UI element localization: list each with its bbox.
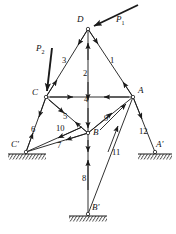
member-number-1: 1 <box>110 56 114 65</box>
arrow-1-at-A <box>123 82 133 97</box>
member-number-2: 2 <box>83 69 87 78</box>
joint-label-A-prime: A' <box>156 140 163 149</box>
truss-diagram-figure: D C A B C' A' B' 1 2 3 4 5 6 7 8 9 10 11… <box>0 0 176 234</box>
ground-supports <box>8 154 172 222</box>
load-P2-arrow <box>47 48 52 91</box>
joint-label-B: B <box>93 128 99 137</box>
support-C-prime <box>8 154 46 160</box>
load-P1-subscript: 1 <box>122 20 125 26</box>
support-B-prime <box>69 216 107 222</box>
joint-B-marker <box>86 131 89 134</box>
joint-C-marker <box>44 95 47 98</box>
member-number-12: 12 <box>139 127 148 136</box>
support-A-prime <box>138 154 172 160</box>
arrow-3-at-D <box>78 29 88 45</box>
joint-label-B-prime: B' <box>92 203 99 212</box>
joint-markers <box>24 27 156 215</box>
arrow-12-at-A <box>133 97 142 119</box>
joint-A-marker <box>131 95 134 98</box>
joint-D-marker <box>86 27 89 30</box>
diagram-canvas <box>0 0 176 234</box>
member-number-6: 6 <box>31 125 35 134</box>
member-number-9: 9 <box>104 114 108 123</box>
joint-label-C-prime: C' <box>11 140 19 149</box>
member-number-3: 3 <box>62 56 66 65</box>
joint-C-prime-marker <box>24 150 27 153</box>
member-number-7: 7 <box>57 141 61 150</box>
member-lines <box>26 29 155 214</box>
arrow-1-at-D <box>88 29 98 44</box>
member-number-10: 10 <box>56 124 65 133</box>
load-label-P2: P2 <box>36 44 45 55</box>
member-number-8: 8 <box>82 174 86 183</box>
joint-B-prime-marker <box>86 212 89 215</box>
joint-label-D: D <box>77 15 84 24</box>
arrow-6-at-C <box>39 97 46 117</box>
arrow-7-toward-Cp <box>66 133 88 140</box>
joint-A-prime-marker <box>153 150 156 153</box>
load-P2-subscript: 2 <box>42 49 45 55</box>
arrow-5-at-C <box>49 100 64 113</box>
load-label-P1: P1 <box>116 15 125 26</box>
member-number-5: 5 <box>63 112 67 121</box>
member-number-11: 11 <box>112 148 120 157</box>
joint-label-C: C <box>32 88 38 97</box>
joint-label-A: A <box>138 86 144 95</box>
member-number-4: 4 <box>84 95 88 104</box>
